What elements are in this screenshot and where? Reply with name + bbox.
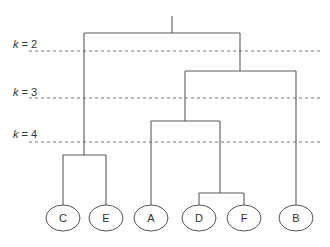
leaf-f-label: F — [241, 212, 248, 224]
leaf-a-label: A — [147, 212, 155, 224]
dendrogram-canvas: k = 2 k = 3 k = 4 — [0, 0, 330, 247]
leaf-node-c: C — [46, 205, 80, 231]
leaf-b-label: B — [292, 212, 299, 224]
cut-label-k2: k = 2 — [13, 38, 37, 50]
leaf-node-f: F — [227, 205, 261, 231]
cut-lines — [29, 51, 322, 142]
leaf-node-b: B — [279, 205, 313, 231]
leaf-d-label: D — [195, 212, 203, 224]
tree-edges — [63, 16, 296, 205]
leaf-node-d: D — [182, 205, 216, 231]
cut-label-k3: k = 3 — [13, 86, 37, 98]
leaf-node-e: E — [89, 205, 123, 231]
leaf-c-label: C — [59, 212, 67, 224]
leaf-node-a: A — [134, 205, 168, 231]
cut-labels: k = 2 k = 3 k = 4 — [13, 38, 37, 140]
leaf-e-label: E — [102, 212, 109, 224]
cut-label-k4: k = 4 — [13, 128, 37, 140]
leaf-nodes: C E A D F B — [46, 205, 313, 231]
